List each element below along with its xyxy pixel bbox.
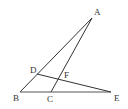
label-c: C (47, 94, 53, 104)
geometry-diagram: A B C D E F (0, 0, 128, 109)
segment-ac (51, 18, 92, 92)
segment-de (37, 74, 111, 92)
label-e: E (114, 93, 120, 103)
segment-ab (20, 18, 92, 92)
label-d: D (30, 65, 37, 75)
label-a: A (94, 7, 101, 17)
label-b: B (13, 93, 19, 103)
label-f: F (64, 70, 69, 80)
